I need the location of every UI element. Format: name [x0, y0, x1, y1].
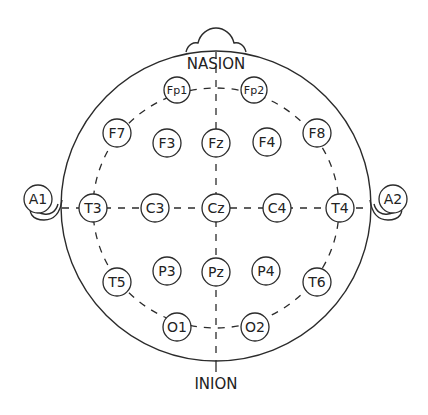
electrode-pz: Pz	[202, 258, 230, 286]
svg-text:Pz: Pz	[208, 264, 224, 280]
svg-text:Cz: Cz	[207, 200, 224, 216]
electrode-o2: O2	[241, 313, 269, 341]
electrode-fp1: Fp1	[164, 77, 190, 103]
electrode-p4: P4	[252, 257, 280, 285]
svg-text:A2: A2	[384, 191, 402, 207]
svg-text:C4: C4	[268, 200, 287, 216]
svg-text:P4: P4	[257, 263, 274, 279]
electrode-f8: F8	[303, 119, 331, 147]
svg-text:F7: F7	[109, 125, 126, 141]
svg-text:P3: P3	[158, 263, 175, 279]
svg-text:A1: A1	[29, 191, 47, 207]
electrode-c3: C3	[141, 194, 169, 222]
svg-text:F4: F4	[259, 134, 276, 150]
svg-text:Fp1: Fp1	[167, 84, 187, 97]
electrode-o1: O1	[163, 313, 191, 341]
electrode-t5: T5	[103, 268, 131, 296]
electrode-f3: F3	[153, 129, 181, 157]
electrode-a1: A1	[24, 185, 52, 213]
svg-text:F8: F8	[309, 125, 326, 141]
svg-text:O1: O1	[167, 319, 187, 335]
electrode-t3: T3	[79, 194, 107, 222]
electrode-p3: P3	[153, 257, 181, 285]
electrode-fp2: Fp2	[241, 77, 267, 103]
svg-text:T5: T5	[107, 274, 125, 290]
electrode-f7: F7	[103, 119, 131, 147]
svg-text:T4: T4	[330, 200, 349, 216]
svg-text:T6: T6	[307, 274, 326, 290]
svg-text:T3: T3	[83, 200, 101, 216]
nose-outline	[186, 28, 246, 52]
svg-text:O2: O2	[245, 319, 265, 335]
electrode-f4: F4	[253, 128, 281, 156]
electrode-t4: T4	[326, 194, 354, 222]
electrode-cz: Cz	[202, 194, 230, 222]
svg-text:Fz: Fz	[208, 135, 223, 151]
svg-text:F3: F3	[159, 135, 176, 151]
electrode-a2: A2	[379, 185, 407, 213]
electrode-t6: T6	[303, 268, 331, 296]
svg-text:C3: C3	[146, 200, 165, 216]
nasion-label: NASION	[187, 55, 245, 73]
svg-text:Fp2: Fp2	[244, 84, 264, 97]
electrode-fz: Fz	[202, 129, 230, 157]
eeg-10-20-diagram: NASION INION Fp1 Fp2 F7 F3 Fz F4 F8 A1 T…	[0, 0, 428, 415]
electrode-c4: C4	[263, 194, 291, 222]
inion-label: INION	[194, 375, 237, 393]
